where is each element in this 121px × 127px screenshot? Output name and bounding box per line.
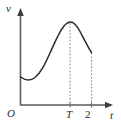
x-axis-label: t [110, 110, 113, 121]
x-tick-label-2T: 2 [85, 109, 91, 120]
graph-canvas [0, 0, 121, 127]
x-axis-arrowhead [105, 102, 113, 108]
velocity-time-graph-figure: v t O T 2 [0, 0, 121, 127]
velocity-curve [21, 22, 92, 80]
y-axis-label: v [6, 3, 11, 14]
y-axis-arrowhead [17, 8, 24, 16]
x-tick-label-T: T [66, 109, 72, 120]
origin-label: O [7, 108, 15, 119]
